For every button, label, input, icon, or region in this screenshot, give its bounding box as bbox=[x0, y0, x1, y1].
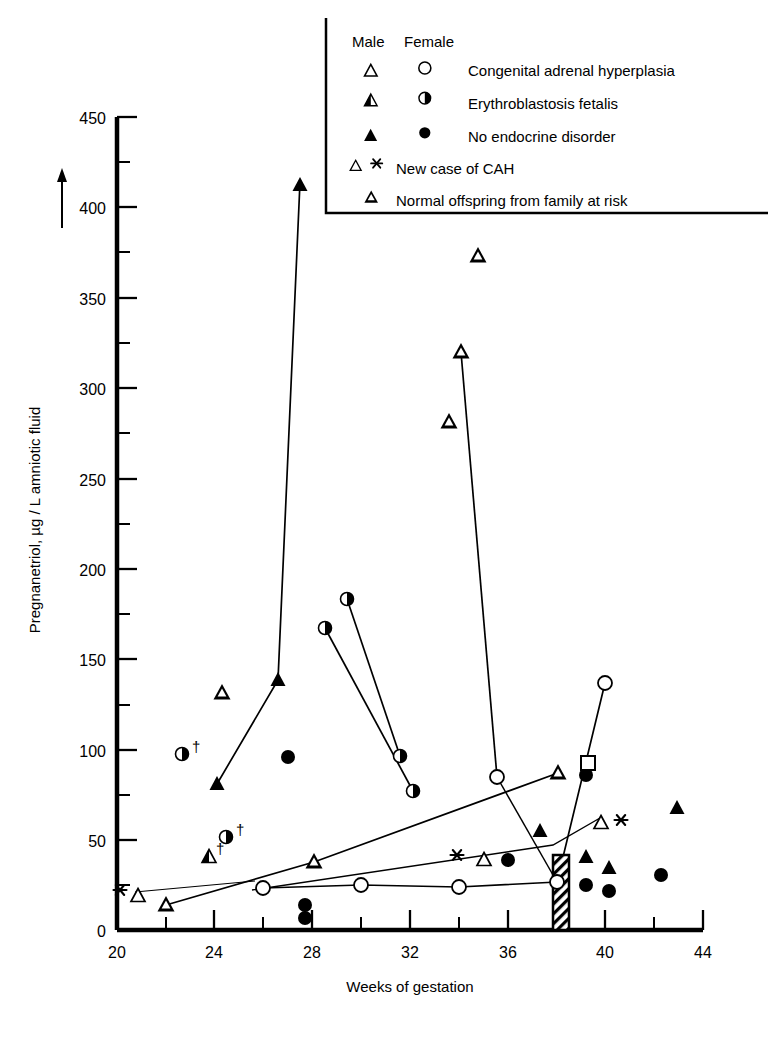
chart-svg: 450 400 350 300 250 200 150 100 50 0 20 … bbox=[0, 0, 774, 1043]
svg-text:250: 250 bbox=[79, 472, 106, 489]
figure-canvas: 450 400 350 300 250 200 150 100 50 0 20 … bbox=[0, 0, 774, 1043]
legend-label-no-endocrine: No endocrine disorder bbox=[468, 128, 616, 145]
legend-row-new-case-cah: New case of CAH bbox=[350, 159, 514, 177]
legend-label-normal-offspring: Normal offspring from family at risk bbox=[396, 192, 628, 209]
x-axis-title: Weeks of gestation bbox=[346, 978, 473, 995]
half-triangle-icon bbox=[365, 94, 378, 106]
filled-triangle-icon bbox=[364, 129, 377, 141]
open-circle-icon bbox=[419, 62, 431, 74]
svg-text:40: 40 bbox=[596, 944, 614, 961]
line-normal-offspring-drop bbox=[461, 352, 497, 777]
x-tick-labels: 20 24 28 32 36 40 44 bbox=[108, 944, 712, 961]
svg-text:†: † bbox=[192, 738, 200, 755]
legend-row-cah: Congenital adrenal hyperplasia bbox=[365, 62, 676, 79]
y-axis bbox=[117, 117, 137, 930]
svg-text:†: † bbox=[216, 840, 224, 857]
filled-circle-icon bbox=[419, 127, 430, 138]
svg-text:150: 150 bbox=[79, 652, 106, 669]
legend-label-erythroblastosis: Erythroblastosis fetalis bbox=[468, 95, 618, 112]
svg-text:300: 300 bbox=[79, 381, 106, 398]
svg-text:36: 36 bbox=[499, 944, 517, 961]
svg-text:44: 44 bbox=[694, 944, 712, 961]
y-tick-labels: 450 400 350 300 250 200 150 100 50 0 bbox=[79, 110, 106, 940]
svg-text:24: 24 bbox=[205, 944, 223, 961]
legend-label-new-case-cah: New case of CAH bbox=[396, 160, 514, 177]
svg-text:28: 28 bbox=[303, 944, 321, 961]
legend-row-normal-offspring: Normal offspring from family at risk bbox=[364, 190, 628, 209]
svg-text:0: 0 bbox=[97, 923, 106, 940]
open-triangle-asterisk-icon bbox=[350, 159, 382, 170]
legend-header-male: Male bbox=[352, 33, 385, 50]
line-eryth-pair-2 bbox=[347, 599, 400, 756]
svg-text:350: 350 bbox=[79, 291, 106, 308]
svg-text:†: † bbox=[236, 821, 244, 838]
svg-text:20: 20 bbox=[108, 944, 126, 961]
marker-filled-triangle-group bbox=[210, 177, 685, 874]
svg-text:32: 32 bbox=[401, 944, 419, 961]
line-left-faint bbox=[135, 881, 255, 892]
bold-triangle-icon bbox=[364, 190, 378, 202]
marker-half-triangle-group bbox=[202, 850, 216, 863]
half-circle-icon bbox=[419, 92, 431, 104]
svg-text:50: 50 bbox=[88, 833, 106, 850]
dagger-annotations: † † † bbox=[192, 738, 244, 857]
legend-header-female: Female bbox=[404, 33, 454, 50]
marker-open-triangle-group bbox=[131, 816, 608, 902]
legend-row-no-endocrine: No endocrine disorder bbox=[364, 127, 615, 145]
legend-row-erythroblastosis: Erythroblastosis fetalis bbox=[365, 92, 619, 112]
svg-text:100: 100 bbox=[79, 743, 106, 760]
x-axis bbox=[117, 910, 703, 930]
line-male-no-endocrine bbox=[217, 182, 300, 784]
y-axis-title: Pregnanetriol, µg / L amniotic fluid bbox=[26, 407, 43, 634]
svg-text:400: 400 bbox=[79, 200, 106, 217]
marker-bold-triangle-group bbox=[158, 247, 567, 912]
hatched-bar-marker bbox=[553, 855, 569, 930]
marker-half-circle-group bbox=[176, 593, 420, 844]
svg-text:200: 200 bbox=[79, 562, 106, 579]
legend-label-cah: Congenital adrenal hyperplasia bbox=[468, 62, 675, 79]
line-eryth-pair-1 bbox=[325, 628, 413, 791]
line-male-cah-rise bbox=[252, 818, 600, 890]
legend-box: Male Female Congenital adrenal hyperplas… bbox=[326, 18, 768, 213]
y-axis-title-group: Pregnanetriol, µg / L amniotic fluid bbox=[26, 168, 67, 633]
marker-open-square-group bbox=[581, 756, 595, 770]
svg-text:450: 450 bbox=[79, 110, 106, 127]
series-connector-lines bbox=[135, 182, 605, 905]
marker-filled-circle-group bbox=[281, 750, 668, 925]
open-triangle-icon bbox=[365, 64, 378, 76]
